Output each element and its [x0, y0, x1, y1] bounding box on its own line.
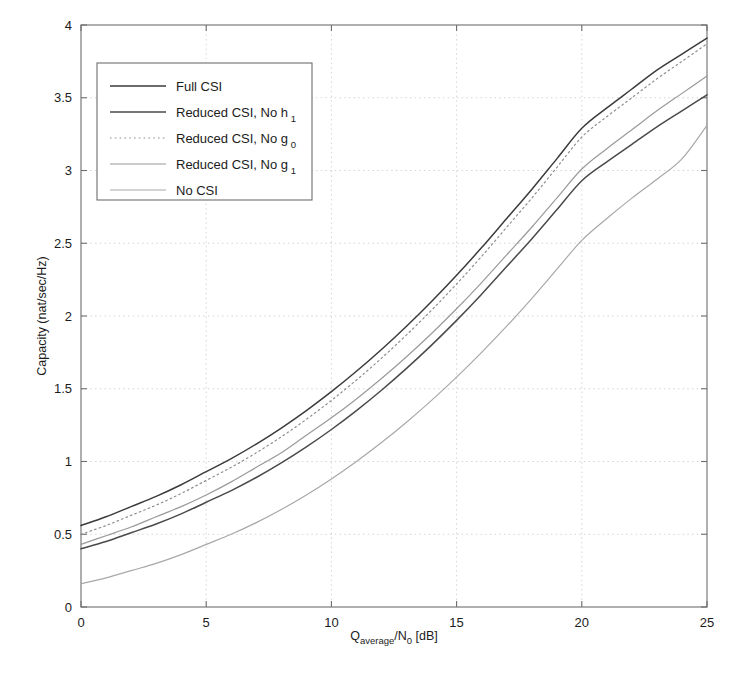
y-tick-label: 0: [65, 600, 72, 615]
x-title-base: Q: [350, 629, 360, 643]
y-axis-title-text: Capacity (nat/sec/Hz): [35, 256, 49, 375]
x-tick-label: 5: [203, 615, 210, 630]
legend-label-subscript-3: 1: [288, 165, 296, 176]
legend: Full CSIReduced CSI, No h 1Reduced CSI, …: [97, 63, 312, 200]
legend-label-text-3: Reduced CSI, No g: [176, 157, 288, 172]
x-tick-label: 25: [700, 615, 714, 630]
y-tick-label: 1: [65, 454, 72, 469]
x-tick-label: 10: [324, 615, 338, 630]
y-tick-label: 3: [65, 163, 72, 178]
capacity-vs-snr-line-chart: 051015202500.511.522.533.54 Capacity (na…: [0, 0, 741, 675]
y-tick-label: 3.5: [54, 90, 72, 105]
legend-label-text-0: Full CSI: [176, 79, 222, 94]
x-tick-label: 0: [77, 615, 84, 630]
legend-label-text-1: Reduced CSI, No h: [176, 105, 288, 120]
legend-label-text-4: No CSI: [176, 183, 218, 198]
y-tick-label: 4: [65, 18, 72, 33]
legend-label-subscript-2: 0: [288, 139, 296, 150]
x-tick-label: 15: [449, 615, 463, 630]
legend-label-text-2: Reduced CSI, No g: [176, 131, 288, 146]
y-tick-label: 0.5: [54, 527, 72, 542]
x-axis-title-text: Qaverage/N0 [dB]: [350, 629, 438, 646]
y-tick-label: 2.5: [54, 236, 72, 251]
x-axis-title: Qaverage/N0 [dB]: [350, 629, 438, 646]
chart-figure: 051015202500.511.522.533.54 Capacity (na…: [0, 0, 741, 675]
y-tick-label: 1.5: [54, 381, 72, 396]
x-tick-label: 20: [575, 615, 589, 630]
x-title-tail: [dB]: [412, 629, 438, 643]
x-title-sub-average: average: [360, 635, 394, 646]
legend-label-0: Full CSI: [176, 79, 222, 94]
y-tick-label: 2: [65, 309, 72, 324]
legend-label-4: No CSI: [176, 183, 218, 198]
legend-label-subscript-1: 1: [288, 113, 296, 124]
x-title-mid: /N: [394, 629, 407, 643]
y-axis-title: Capacity (nat/sec/Hz): [35, 256, 49, 375]
